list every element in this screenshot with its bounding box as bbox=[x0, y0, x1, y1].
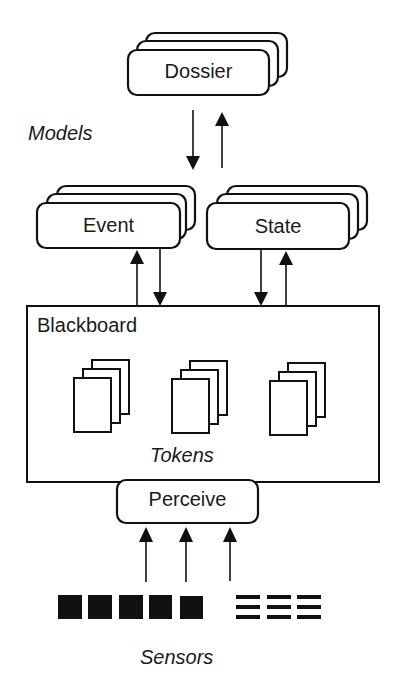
token-stack-1 bbox=[74, 360, 129, 432]
blackboard-label: Blackboard bbox=[37, 314, 137, 337]
solid-sensors bbox=[58, 595, 203, 619]
tokens-label: Tokens bbox=[150, 444, 214, 467]
sensor-perceive-arrows bbox=[139, 527, 237, 582]
model-blackboard-arrows bbox=[130, 248, 293, 306]
dossier-label: Dossier bbox=[128, 60, 269, 83]
token-stack-2 bbox=[172, 361, 227, 433]
event-label: Event bbox=[37, 214, 180, 237]
token-stack-3 bbox=[270, 363, 325, 435]
striped-sensors bbox=[236, 595, 321, 619]
sensors-label: Sensors bbox=[140, 646, 213, 669]
architecture-diagram bbox=[0, 0, 394, 684]
models-label: Models bbox=[28, 122, 92, 145]
dossier-models-arrows bbox=[186, 110, 229, 170]
state-label: State bbox=[207, 215, 349, 238]
perceive-label: Perceive bbox=[117, 488, 258, 511]
